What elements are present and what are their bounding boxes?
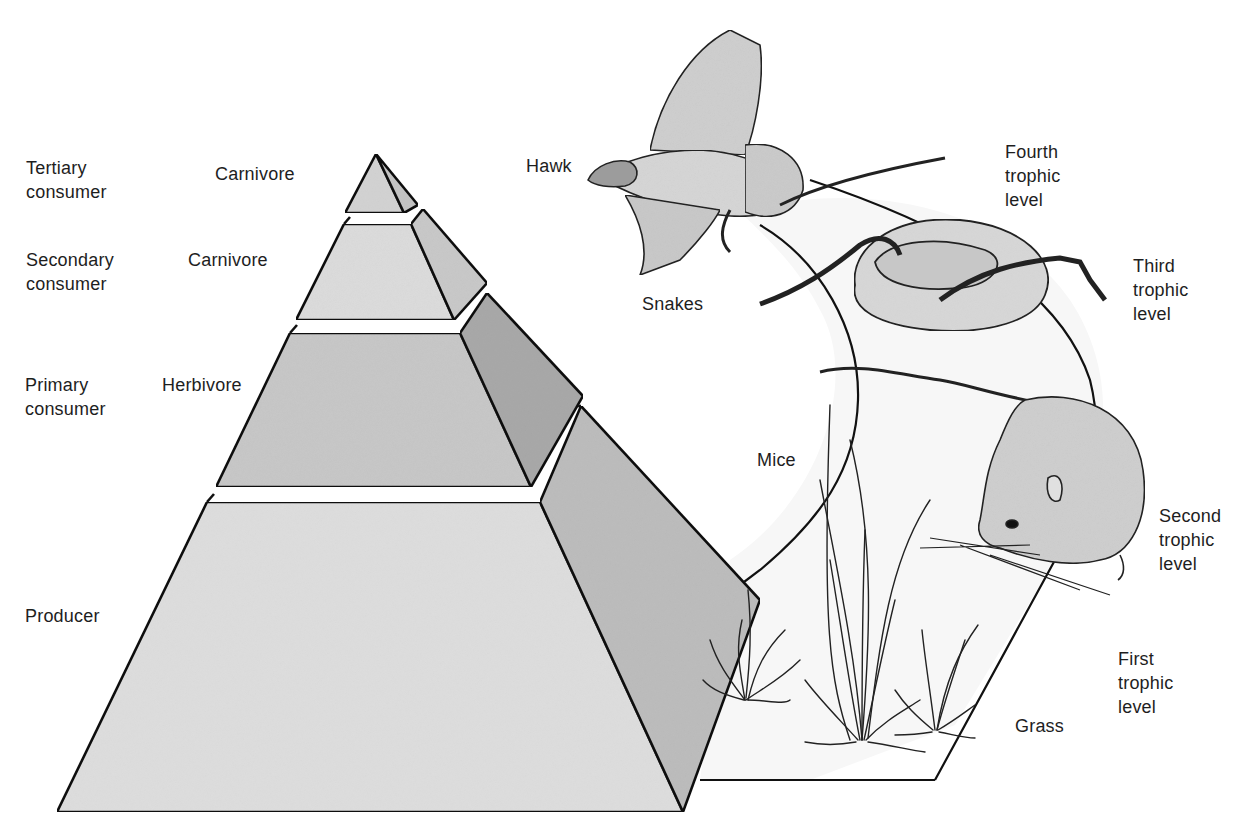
label-third-trophic-level: Third trophic level: [1133, 254, 1188, 326]
pyramid-tier-primary-consumer: [216, 293, 583, 487]
hawk-lower-wing: [625, 195, 720, 275]
pyramid-tier-secondary-consumer: [296, 209, 487, 320]
mouse-ear: [1047, 476, 1062, 502]
label-secondary-consumer: Secondary consumer: [26, 248, 114, 296]
label-mice: Mice: [757, 448, 796, 472]
snake-coil-inner: [875, 241, 997, 289]
label-second-trophic-level: Second trophic level: [1159, 504, 1221, 576]
pyramid-tier-tertiary-consumer: [345, 154, 418, 213]
label-snakes: Snakes: [642, 292, 703, 316]
label-grass: Grass: [1015, 714, 1064, 738]
diagram-canvas: [0, 0, 1253, 840]
mouse-eye: [1006, 520, 1018, 528]
label-secondary-carnivore: Carnivore: [188, 248, 268, 272]
label-tertiary-consumer: Tertiary consumer: [26, 156, 107, 204]
hawk-head: [588, 161, 637, 187]
hawk-upper-wing: [650, 30, 761, 155]
label-tertiary-carnivore: Carnivore: [215, 162, 295, 186]
label-first-trophic-level: First trophic level: [1118, 647, 1173, 719]
label-primary-herbivore: Herbivore: [162, 373, 242, 397]
label-producer: Producer: [25, 604, 100, 628]
mouse-paw: [1118, 555, 1124, 580]
hawk-tail: [745, 144, 803, 216]
label-primary-consumer: Primary consumer: [25, 373, 106, 421]
label-fourth-trophic-level: Fourth trophic level: [1005, 140, 1060, 212]
label-hawk: Hawk: [526, 154, 572, 178]
